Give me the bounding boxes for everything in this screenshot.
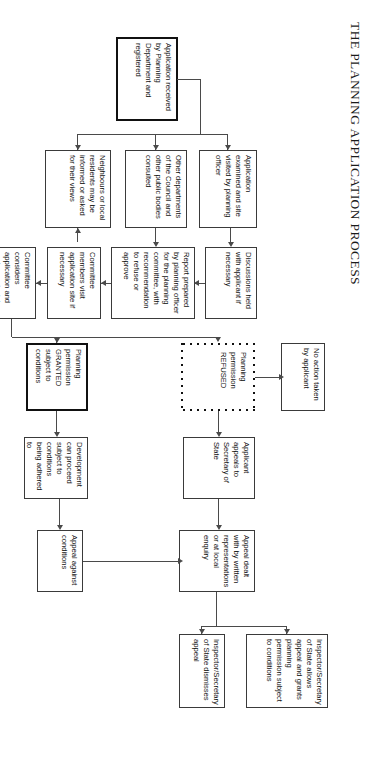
node-other-departments: Other departments of the Council and oth… [125,150,187,228]
arrowhead [284,629,290,634]
node-appeal-against-conditions: Appeal against conditions [37,530,83,592]
arrowhead [57,525,63,530]
connector [56,411,57,433]
arrowhead [215,337,221,342]
connector [218,499,219,525]
connector [155,228,156,242]
arrowhead [279,374,284,380]
connector [218,411,219,433]
node-application-examined: Application examined and site visited by… [199,150,257,228]
node-permission-granted: Planning permission GRANTED subject to c… [26,343,88,411]
node-development-proceed: Development can proceed subject to condi… [24,437,88,499]
arrowhead [54,432,60,437]
arrowhead [216,525,222,530]
arrowhead [199,629,205,634]
connector [59,499,60,525]
arrowhead [178,558,183,564]
arrowhead [225,145,231,150]
connector [200,79,201,134]
connector [216,592,217,626]
connector [230,228,231,242]
node-inspector-dismisses: Inspector/Secretary of State dismisses a… [179,634,225,708]
arrowhead [153,242,159,247]
node-report-prepared: Report prepared by planning officer for … [111,247,195,319]
connector [83,561,179,562]
node-no-action: No action taken by applicant [281,343,325,411]
arrowhead [75,145,81,150]
arrowhead [54,338,60,343]
arrowhead [194,280,199,286]
arrowhead [153,145,159,150]
arrowhead [101,280,106,286]
connector [177,79,201,80]
node-committee-considers: Committee considers application and make… [0,247,36,319]
node-neighbours: Neighbours or local residents may be inf… [45,150,111,228]
flowchart-canvas: THE PLANNING APPLICATION PROCESS Applica… [0,0,383,767]
node-discussions: Discussions held with applicant if neces… [205,247,257,319]
node-permission-refused: Planning permission REFUSED [181,343,255,411]
arrowhead [228,242,234,247]
arrowhead [36,280,41,286]
connector [78,134,228,135]
page-title: THE PLANNING APPLICATION PROCESS [347,22,363,285]
connector [12,337,218,338]
connector [11,319,12,337]
connector [202,626,287,627]
node-inspector-allows: Inspector/Secretary of State allows appe… [246,634,328,708]
node-appeal-dealt: Appeal dealt with by written representat… [179,530,255,592]
arrowhead [75,228,81,233]
node-committee-visit: Committee members visit application site… [47,247,101,319]
arrowhead [216,432,222,437]
connector [255,377,281,378]
node-application-received: Application received by Planning Departm… [116,37,178,121]
node-applicant-appeals: Applicant appeals to Secretary of State [183,437,255,499]
